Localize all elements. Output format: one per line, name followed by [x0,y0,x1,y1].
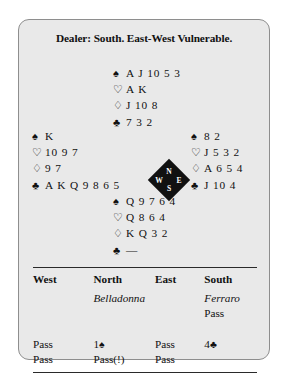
hand-west-hearts-row: ♡ 10 9 7 [32,147,120,163]
spacer-cell-south [204,322,257,337]
hand-north-spades: A J 10 5 3 [126,68,181,79]
hand-north-clubs: 7 3 2 [126,117,153,128]
bid-west [33,306,93,321]
hand-east-hearts-row: ♡ J 5 3 2 [191,147,243,163]
hand-north: ♠ A J 10 5 3 ♡ A K ♢ J 10 8 ♣ 7 3 2 [113,68,181,133]
auction-players-row: Belladonna Ferraro [33,291,257,306]
spacer-cell-north [93,322,155,337]
auction-bottom-rule [33,372,257,373]
hand-south-hearts-row: ♡ Q 8 6 4 [113,212,176,228]
hand-south-diamonds: K Q 3 2 [126,228,168,239]
auction-bid-row: Pass [33,306,257,321]
compass-label-east: E [173,177,185,185]
spade-icon: ♠ [113,68,126,79]
hand-east-diamonds-row: ♢ A 6 5 4 [191,163,243,179]
club-icon: ♣ [113,117,126,128]
bid-south: 4♣ [204,337,257,352]
bid-west: Pass [33,352,93,367]
hand-west-spades-row: ♠ K [32,131,120,147]
diamond-icon: ♢ [32,163,45,174]
bid-north [93,306,155,321]
hand-east-spades: 8 2 [204,131,221,142]
compass-label-south: S [163,185,175,193]
hand-north-diamonds: J 10 8 [126,100,158,111]
auction-bid-row: Pass Pass(!) Pass [33,352,257,367]
hand-north-diamonds-row: ♢ J 10 8 [113,100,181,116]
bid-east [155,306,204,321]
auction-spacer-row [33,322,257,337]
spade-icon: ♠ [191,131,204,142]
hand-south-clubs-row: ♣ — [113,245,176,261]
club-icon: ♣ [113,245,126,256]
spade-icon: ♠ [32,131,45,142]
bid-north: 1♠ [93,337,155,352]
hand-south: ♠ Q 9 7 6 4 ♡ Q 8 6 4 ♢ K Q 3 2 ♣ — [113,196,176,261]
page-title: Dealer: South. East-West Vulnerable. [19,32,269,44]
compass-label-north: N [163,168,175,176]
player-name-east [155,291,204,306]
hand-north-clubs-row: ♣ 7 3 2 [113,117,181,133]
hand-west-diamonds-row: ♢ 9 7 [32,163,120,179]
hand-east-diamonds: A 6 5 4 [204,163,243,174]
bid-north-level: Pass(!) [93,353,124,365]
hand-west-clubs-row: ♣ A K Q 9 8 6 5 [32,180,120,196]
player-name-north: Belladonna [93,291,155,306]
bid-south: Pass [204,306,257,321]
spacer-cell-east [155,322,204,337]
compass-label-west: W [153,177,165,185]
hand-east-spades-row: ♠ 8 2 [191,131,243,147]
bid-south [204,352,257,367]
hand-west-hearts: 10 9 7 [45,147,79,158]
bid-east: Pass [155,337,204,352]
heart-icon: ♡ [113,84,126,95]
hand-west-diamonds: 9 7 [45,163,62,174]
heart-icon: ♡ [113,212,126,223]
auction-header-west: West [33,268,93,291]
hand-south-hearts: Q 8 6 4 [126,212,166,223]
club-icon: ♣ [191,180,204,191]
auction-header-north: North [93,268,155,291]
compass-rose: N W E S [147,158,191,202]
hand-west-clubs: A K Q 9 8 6 5 [45,180,120,191]
player-name-west [33,291,93,306]
bid-west: Pass [33,337,93,352]
heart-icon: ♡ [191,147,204,158]
hand-west-spades: K [45,131,54,142]
club-icon: ♣ [32,180,45,191]
auction-header-row: West North East South [33,268,257,291]
player-name-south: Ferraro [204,291,257,306]
auction-header-east: East [155,268,204,291]
bid-north: Pass(!) [93,352,155,367]
hand-south-diamonds-row: ♢ K Q 3 2 [113,228,176,244]
hand-north-hearts-row: ♡ A K [113,84,181,100]
heart-icon: ♡ [32,147,45,158]
bid-north-suit-icon: ♠ [99,339,105,350]
diamond-icon: ♢ [113,100,126,111]
auction-table: West North East South Belladonna Ferraro [33,267,257,373]
hand-south-clubs: — [126,245,138,256]
diamond-icon: ♢ [191,163,204,174]
hand-east-clubs: J 10 4 [204,180,236,191]
hand-west: ♠ K ♡ 10 9 7 ♢ 9 7 ♣ A K Q 9 8 6 5 [32,131,120,196]
bridge-deal-card: Dealer: South. East-West Vulnerable. ♠ A… [18,19,270,360]
hand-north-hearts: A K [126,84,147,95]
bid-east: Pass [155,352,204,367]
hand-east-hearts: J 5 3 2 [204,147,240,158]
spacer-cell-west [33,322,93,337]
auction-bid-row: Pass 1♠ Pass 4♣ [33,337,257,352]
spade-icon: ♠ [113,196,126,207]
hand-north-spades-row: ♠ A J 10 5 3 [113,68,181,84]
hand-east: ♠ 8 2 ♡ J 5 3 2 ♢ A 6 5 4 ♣ J 10 4 [191,131,243,196]
auction-header-south: South [204,268,257,291]
diamond-icon: ♢ [113,228,126,239]
bid-south-level: Pass [204,307,224,319]
bid-south-suit-icon: ♣ [210,339,217,350]
hand-east-clubs-row: ♣ J 10 4 [191,180,243,196]
